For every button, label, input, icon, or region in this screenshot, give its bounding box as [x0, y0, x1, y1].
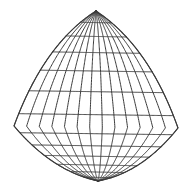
mesh-figure: [0, 0, 192, 195]
figure-background: [0, 0, 192, 195]
mesh-canvas: [0, 0, 192, 195]
